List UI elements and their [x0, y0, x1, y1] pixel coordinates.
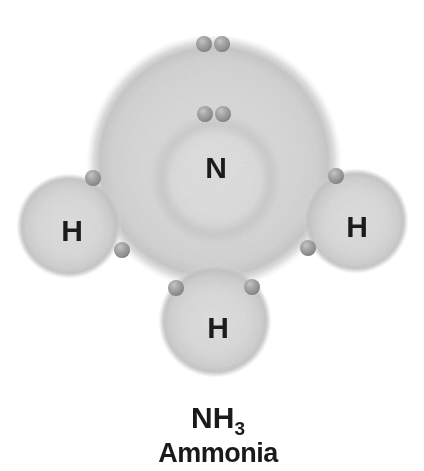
hydrogen-left-label: H	[61, 214, 83, 247]
electron-lone-pair-right	[214, 36, 230, 52]
electron-bond-right-lower	[300, 240, 316, 256]
electron-bond-bottom-left	[168, 280, 184, 296]
electron-core-pair-left	[197, 106, 213, 122]
formula-subscript: 3	[234, 418, 245, 439]
electron-bond-left-lower	[114, 242, 130, 258]
diagram-svg: N H H H NH3 Ammonia	[0, 0, 424, 471]
electron-bond-left-upper	[85, 170, 101, 186]
ammonia-molecule-diagram: N H H H NH3 Ammonia	[0, 0, 424, 471]
electron-bond-bottom-right	[244, 279, 260, 295]
formula-base: NH	[191, 401, 234, 434]
electron-lone-pair-left	[196, 36, 212, 52]
hydrogen-bottom-label: H	[207, 311, 229, 344]
hydrogen-right-label: H	[346, 210, 368, 243]
electron-core-pair-right	[215, 106, 231, 122]
electron-bond-right-upper	[328, 168, 344, 184]
molecule-name-caption: Ammonia	[158, 438, 279, 468]
formula-caption: NH3	[191, 401, 245, 439]
nitrogen-label: N	[205, 151, 227, 184]
